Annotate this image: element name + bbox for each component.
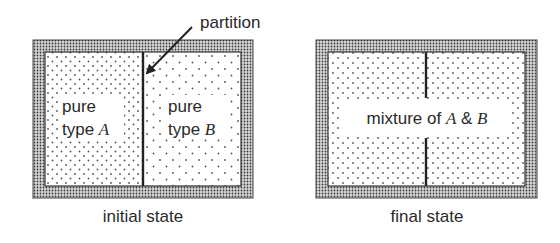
left-label-line1: pure	[62, 97, 96, 116]
variable-a: A	[445, 109, 457, 128]
variable-b: B	[205, 120, 216, 139]
right-label-line1: pure	[168, 97, 202, 116]
mixture-label: mixture of A & B	[367, 109, 489, 128]
final-state-caption: final state	[391, 207, 464, 226]
variable-a: A	[98, 120, 110, 139]
initial-state-container: pure type A pure type B initial state	[33, 40, 253, 226]
partition-label: partition	[200, 13, 260, 32]
right-label-line2: type B	[168, 120, 216, 139]
diagram-canvas: pure type A pure type B initial state pa…	[0, 0, 560, 243]
final-state-container: mixture of A & B final state	[316, 40, 537, 226]
variable-b: B	[477, 109, 488, 128]
initial-state-caption: initial state	[103, 207, 183, 226]
left-label-line2: type A	[62, 120, 110, 139]
